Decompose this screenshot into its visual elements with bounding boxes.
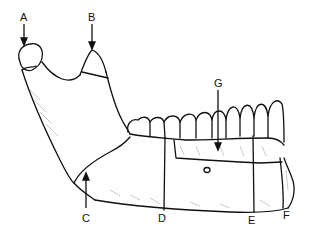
label-a: A — [20, 12, 27, 23]
label-g: G — [214, 78, 223, 89]
label-d: D — [158, 213, 166, 224]
label-b: B — [88, 12, 95, 23]
mandible-diagram: A B C D E F G — [0, 0, 309, 234]
mandible-drawing — [0, 0, 309, 234]
label-e: E — [248, 215, 255, 226]
label-c: C — [82, 213, 90, 224]
label-f: F — [283, 210, 290, 221]
